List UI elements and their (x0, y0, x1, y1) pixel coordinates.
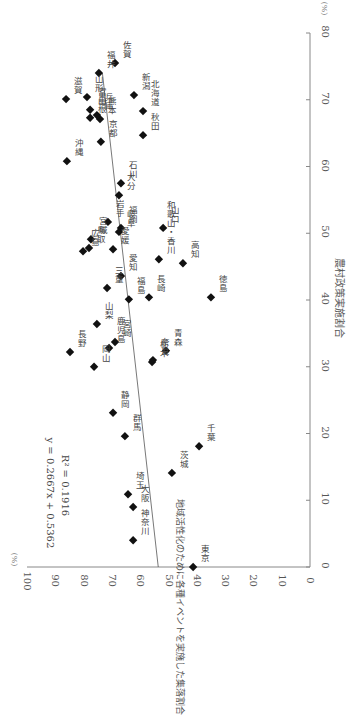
point-label: 千葉 (204, 424, 216, 442)
data-point-marker (179, 259, 187, 267)
data-point-marker (155, 255, 163, 263)
y-axis-title: 地域活性化のために各種イベントを実施した集落割合 (174, 487, 187, 719)
data-point-marker (62, 95, 70, 103)
data-point-marker (93, 320, 101, 328)
point-label: 青森 (171, 329, 183, 347)
y-tick-label: 10 (276, 572, 287, 590)
point-label: 京都 (106, 120, 118, 138)
point-label: 長崎 (154, 275, 166, 293)
x-tick-label: 50 (320, 223, 331, 241)
data-point-marker (139, 107, 147, 115)
y-tick-label: 80 (78, 572, 89, 590)
point-label: 福島 (134, 277, 146, 295)
data-point-marker (109, 409, 117, 417)
data-point-marker (145, 293, 153, 301)
y-tick-label: 20 (248, 572, 259, 590)
y-tick-label: 90 (50, 572, 61, 590)
x-tick-label: 10 (320, 490, 331, 508)
data-point-marker (130, 91, 138, 99)
data-point-marker (66, 348, 74, 356)
point-label: 熊本 (105, 97, 117, 115)
point-label: 滋賀 (71, 77, 83, 95)
point-label: 佐賀 (120, 41, 132, 59)
data-point-marker (207, 293, 215, 301)
data-point-marker (124, 490, 132, 498)
point-label: 大阪 (138, 485, 150, 503)
point-label: 愛媛 (118, 227, 130, 245)
data-point-marker (103, 284, 111, 292)
x-tick-label: 0 (320, 557, 331, 575)
point-label: 北海道 (148, 80, 160, 107)
point-label: 徳島 (216, 275, 228, 293)
data-point-marker (189, 563, 197, 571)
data-point-marker (90, 363, 98, 371)
data-point-marker (129, 503, 137, 511)
data-point-marker (97, 138, 105, 146)
data-point-marker (83, 93, 91, 101)
data-point-marker (168, 469, 176, 477)
y-tick-label: 30 (220, 572, 231, 590)
data-point-marker (129, 536, 137, 544)
point-label: 福井 (104, 51, 116, 69)
x-axis-title: 農村政策実施割合 (333, 248, 348, 348)
point-label: 三重 (112, 266, 124, 284)
data-point-marker (109, 245, 117, 253)
point-label: 岡山 (99, 345, 111, 363)
x-axis-unit: (%) (320, 0, 329, 21)
regression-equation: y = 0.2667x + 0.5362 (45, 438, 56, 548)
x-tick-label: 80 (320, 23, 331, 41)
data-point-marker (125, 295, 133, 303)
point-label: 神奈川 (138, 509, 150, 536)
point-label: 静岡 (118, 391, 130, 409)
point-label: 秋田 (148, 113, 160, 131)
y-tick-label: 40 (191, 572, 202, 590)
point-label: 茨城 (177, 451, 189, 469)
data-point-marker (195, 442, 203, 450)
point-label: 東京 (198, 545, 210, 563)
data-point-marker (139, 131, 147, 139)
x-tick-label: 30 (320, 356, 331, 374)
y-tick-label: 60 (135, 572, 146, 590)
point-label: 栃木 (157, 340, 169, 358)
x-tick-label: 60 (320, 156, 331, 174)
x-tick-label: 20 (320, 423, 331, 441)
point-label: 大分 (124, 173, 136, 191)
point-label: 和歌山・香川 (164, 201, 176, 255)
r-squared: R² = 0.1916 (60, 451, 71, 521)
point-label: 岐阜 (124, 210, 136, 228)
data-point-marker (63, 157, 71, 165)
point-label: 広島 (88, 229, 100, 247)
y-tick-label: 0 (305, 572, 316, 590)
y-axis-unit: (%) (10, 548, 19, 572)
y-tick-label: 70 (106, 572, 117, 590)
y-tick-label: 50 (163, 572, 174, 590)
point-label: 山梨 (102, 302, 114, 320)
point-label: 愛知 (126, 254, 138, 272)
y-tick-label: 100 (22, 572, 33, 590)
point-label: 沖縄 (72, 139, 84, 157)
data-point-marker (86, 106, 94, 114)
point-label: 長野 (75, 330, 87, 348)
point-label: 鹿児島 (114, 317, 126, 344)
data-point-marker (121, 432, 129, 440)
point-label: 群馬 (130, 414, 142, 432)
point-label: 高知 (188, 241, 200, 259)
x-tick-label: 70 (320, 89, 331, 107)
x-tick-label: 40 (320, 290, 331, 308)
